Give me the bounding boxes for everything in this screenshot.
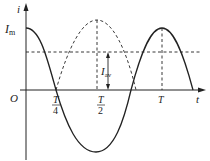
half-period-denominator: 2 — [98, 105, 103, 116]
average-label: Iav — [100, 65, 112, 79]
y-axis-label: i — [17, 3, 20, 15]
ac-current-diagram: i t O Im Iav T 4 T 2 T — [0, 0, 210, 161]
t-axis-label: t — [196, 93, 200, 105]
peak-label: Im — [4, 22, 16, 37]
y-axis-arrow-icon — [24, 3, 29, 11]
full-period-label: T — [158, 94, 165, 105]
origin-label: O — [10, 92, 18, 104]
t-axis-arrow-icon — [198, 88, 206, 93]
arrow-down-icon — [106, 84, 110, 90]
quarter-period-denominator: 4 — [53, 105, 58, 116]
half-period-numerator: T — [98, 94, 105, 105]
arrow-up-icon — [106, 52, 110, 58]
rectified-dashed-curve — [56, 20, 136, 90]
